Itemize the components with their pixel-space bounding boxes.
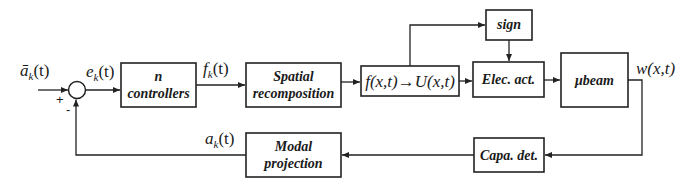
summing-junction [69,82,86,99]
reference-signal-label: āk(t) [20,61,49,82]
branch-to-sign-wire [410,25,485,66]
error-signal-label: ek(t) [86,62,114,83]
modal-label-line2: projection [263,156,323,171]
feedback-signal-label: ak(t) [205,129,234,150]
output-signal-label: w(x,t) [636,59,676,78]
control-block-diagram: āk(t) + - ek(t) n controllers fk(t) Spat… [0,0,695,189]
controllers-label-line1: n [155,69,163,84]
capa-det-label: Capa. det. [480,148,538,163]
modal-label-line1: Modal [274,139,312,154]
spatial-label-line1: Spatial [273,69,314,84]
conversion-label: f(x,t)→U(x,t) [365,72,455,91]
controllers-label-line2: controllers [127,86,190,101]
force-signal-label: fk(t) [203,59,229,80]
microbeam-label: μbeam [574,73,614,88]
elec-act-label: Elec. act. [481,72,535,87]
minus-sign: - [66,102,70,117]
sign-label: sign [496,17,521,32]
plus-sign: + [56,92,64,107]
spatial-label-line2: recomposition [253,86,335,101]
